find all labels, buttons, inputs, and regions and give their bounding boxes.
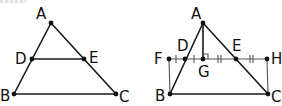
diagram-canvas: A D E B C — [0, 0, 282, 106]
point-h — [265, 57, 270, 62]
point-c — [114, 92, 119, 97]
segment-fb — [169, 59, 170, 94]
point-b — [168, 92, 173, 97]
point-g — [201, 57, 206, 62]
label-b: B — [155, 87, 165, 105]
label-f: F — [154, 50, 163, 68]
label-e: E — [89, 49, 98, 67]
point-d — [30, 57, 35, 62]
label-d: D — [15, 50, 27, 68]
label-a: A — [36, 5, 47, 23]
label-g: G — [198, 63, 210, 81]
segment-hc — [267, 59, 268, 94]
point-d — [183, 57, 188, 62]
point-e — [234, 57, 239, 62]
point-b — [12, 92, 17, 97]
left-figure: A D E B C — [0, 5, 129, 106]
label-c: C — [271, 88, 281, 106]
label-e: E — [232, 37, 241, 55]
point-c — [266, 92, 271, 97]
point-a — [201, 21, 206, 26]
label-a: A — [191, 5, 202, 23]
label-b: B — [0, 87, 10, 105]
label-d: D — [177, 37, 189, 55]
point-a — [49, 21, 54, 26]
right-figure: A F D G E H B C — [154, 5, 282, 106]
point-f — [167, 57, 172, 62]
point-e — [82, 57, 87, 62]
label-c: C — [119, 88, 129, 106]
geometry-diagram: A D E B C — [0, 0, 282, 106]
label-h: H — [271, 50, 282, 68]
